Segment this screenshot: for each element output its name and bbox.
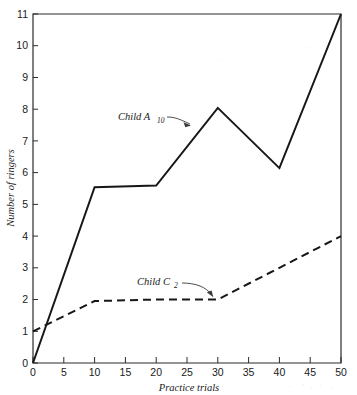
y-tick-label: 2 — [22, 293, 28, 305]
x-tick-label: 25 — [181, 366, 193, 378]
y-axis-title: Number of ringers — [5, 149, 16, 228]
x-tick-label: 10 — [89, 366, 101, 378]
child-a10-label: Child A — [118, 111, 151, 122]
x-tick-label: 5 — [61, 366, 67, 378]
x-tick-label: 15 — [120, 366, 132, 378]
x-tick-label: 0 — [30, 366, 36, 378]
y-tick-label: 1 — [22, 325, 28, 337]
chart-figure: 0 1 2 3 4 5 6 7 8 9 10 11 — [0, 0, 357, 395]
chart-svg: 0 1 2 3 4 5 6 7 8 9 10 11 — [0, 0, 357, 395]
x-tick-label: 45 — [304, 366, 316, 378]
x-tick-label: 30 — [212, 366, 224, 378]
y-tick-label: 10 — [16, 39, 28, 51]
x-tick-label: 35 — [243, 366, 255, 378]
y-tick-label: 6 — [22, 166, 28, 178]
child-c2-label: Child C — [137, 276, 171, 287]
x-tick-label: 20 — [150, 366, 162, 378]
child-a10-label-subscript: 10 — [157, 116, 165, 125]
y-tick-label: 4 — [22, 230, 28, 242]
y-tick-label: 0 — [22, 357, 28, 369]
x-tick-label: 50 — [335, 366, 347, 378]
figure-background — [0, 0, 357, 395]
y-tick-label: 7 — [22, 135, 28, 147]
y-tick-label: 8 — [22, 103, 28, 115]
x-axis-title: Practice trials — [158, 382, 219, 393]
y-tick-label: 3 — [22, 261, 28, 273]
y-tick-label: 11 — [17, 8, 28, 20]
y-tick-label: 9 — [22, 71, 28, 83]
x-tick-label: 40 — [274, 366, 286, 378]
y-tick-label: 5 — [22, 198, 28, 210]
child-c2-label-subscript: 2 — [174, 281, 178, 290]
